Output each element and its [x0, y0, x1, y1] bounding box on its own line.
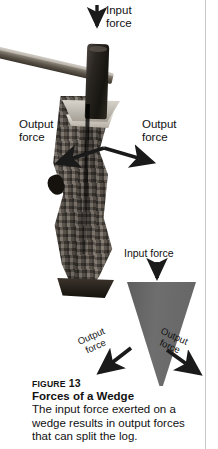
label-input-force-diagram: Input force — [124, 247, 174, 259]
column-divider-rule — [205, 0, 206, 449]
figure-title: Forces of a Wedge — [32, 390, 195, 402]
figure-caption: FIGURE 13 Forces of a Wedge The input fo… — [32, 377, 195, 444]
figure-body-text: The input force exerted on a wedge resul… — [32, 403, 195, 444]
label-output-force-left: Output force — [19, 118, 54, 144]
figure-number: 13 — [69, 377, 81, 389]
photo-hammer-wedge-log — [0, 0, 205, 300]
figure-page: Input force Output force Output force In… — [0, 0, 218, 449]
figure-number-line: FIGURE 13 — [32, 377, 195, 389]
arrow-output-force-diagram-left — [100, 348, 131, 372]
label-input-force-top: Input force — [106, 4, 132, 30]
label-output-force-diagram-left: Output force — [76, 325, 111, 357]
figure-word: FIGURE — [32, 379, 66, 389]
label-output-force-right: Output force — [142, 118, 177, 144]
